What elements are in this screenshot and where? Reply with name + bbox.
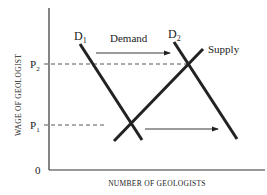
supply-label: Supply [208,43,240,55]
d1-label: D1 [74,29,87,45]
demand-curve-d1 [80,44,142,140]
supply-demand-diagram: D1 D2 Supply Demand P2 P1 0 WAGE OF GEOL… [0,0,267,195]
y-axis-title: WAGE OF GEOLOGIST [14,54,23,136]
demand-shift-label: Demand [110,32,148,44]
x-axis-title: NUMBER OF GEOLOGISTS [108,179,206,188]
p2-tick-label: P2 [30,58,40,73]
p1-tick-label: P1 [30,119,40,134]
origin-label: 0 [35,164,41,176]
d2-label: D2 [168,27,181,43]
supply-curve [114,49,203,141]
demand-curve-d2 [174,42,237,139]
